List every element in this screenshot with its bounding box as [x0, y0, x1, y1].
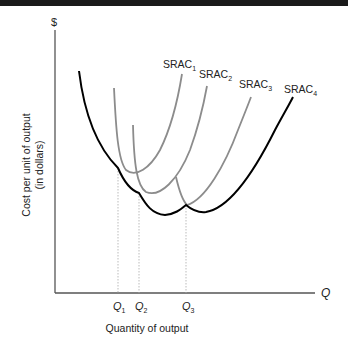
y-axis-title-line1: Cost per unit of output — [20, 113, 32, 216]
srac4-curve — [79, 71, 293, 215]
srac2-curve — [133, 86, 207, 193]
srac1-curve — [114, 74, 182, 173]
x-axis-title: Quantity of output — [106, 322, 189, 334]
y-axis-title: Cost per unit of output (in dollars) — [20, 113, 45, 216]
x-tick-q2: Q2 — [135, 300, 148, 314]
x-tick-q3: Q3 — [182, 300, 195, 314]
srac3-label: SRAC3 — [239, 78, 272, 92]
srac1-label: SRAC1 — [163, 58, 196, 72]
x-axis-symbol: Q — [321, 286, 330, 300]
y-axis-title-line2: (in dollars) — [33, 140, 45, 189]
chart-canvas: $ Q SRAC1 SRAC2 SRAC3 SRAC4 Q1 Q2 Q3 Qua… — [0, 0, 348, 356]
y-axis-symbol: $ — [51, 16, 57, 28]
x-tick-q1: Q1 — [113, 300, 126, 314]
srac2-label: SRAC2 — [199, 68, 232, 82]
srac4-label: SRAC4 — [284, 83, 317, 97]
